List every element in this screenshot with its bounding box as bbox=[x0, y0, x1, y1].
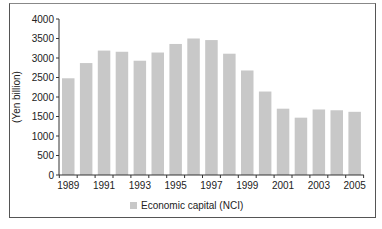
bar-2000 bbox=[259, 92, 272, 175]
bar-1990 bbox=[80, 63, 93, 175]
y-tick-label: 4000 bbox=[32, 14, 55, 25]
bar-1993 bbox=[134, 61, 147, 175]
y-tick-label: 2500 bbox=[32, 72, 55, 83]
x-tick-label: 1995 bbox=[165, 180, 188, 191]
bar-2002 bbox=[295, 118, 308, 175]
y-tick-label: 0 bbox=[48, 170, 54, 181]
x-tick-label: 2001 bbox=[272, 180, 295, 191]
y-tick-label: 2000 bbox=[32, 92, 55, 103]
chart-container: 05001000150020002500300035004000 1989199… bbox=[0, 0, 382, 229]
x-tick-label: 1991 bbox=[93, 180, 116, 191]
bar-1997 bbox=[205, 40, 218, 175]
bar-1998 bbox=[223, 54, 236, 175]
x-tick-label: 1989 bbox=[57, 180, 80, 191]
x-tick-label: 2003 bbox=[308, 180, 331, 191]
bar-2004 bbox=[331, 110, 344, 175]
x-axis: 198919911993199519971999200120032005 bbox=[57, 175, 366, 191]
y-tick-label: 500 bbox=[37, 150, 54, 161]
bar-2001 bbox=[277, 109, 290, 175]
legend-label: Economic capital (NCI) bbox=[141, 200, 243, 211]
bar-2003 bbox=[313, 109, 326, 175]
bar-1996 bbox=[187, 39, 200, 176]
y-axis-label: (Yen billion) bbox=[11, 71, 22, 123]
bars bbox=[62, 39, 361, 176]
x-tick-label: 1997 bbox=[200, 180, 223, 191]
y-tick-label: 3000 bbox=[32, 53, 55, 64]
x-tick-label: 1993 bbox=[129, 180, 152, 191]
bar-1999 bbox=[241, 70, 254, 175]
legend-swatch bbox=[130, 202, 137, 209]
bar-1995 bbox=[169, 44, 182, 175]
bar-1992 bbox=[116, 52, 129, 175]
bar-2005 bbox=[348, 112, 361, 175]
x-tick-label: 2005 bbox=[344, 180, 367, 191]
legend: Economic capital (NCI) bbox=[130, 200, 243, 211]
bar-1989 bbox=[62, 78, 75, 175]
y-tick-label: 3500 bbox=[32, 33, 55, 44]
y-tick-label: 1000 bbox=[32, 131, 55, 142]
bar-1991 bbox=[98, 51, 111, 175]
bar-chart: 05001000150020002500300035004000 1989199… bbox=[0, 0, 382, 229]
x-tick-label: 1999 bbox=[236, 180, 259, 191]
y-tick-label: 1500 bbox=[32, 111, 55, 122]
y-axis: 05001000150020002500300035004000 bbox=[32, 14, 59, 181]
bar-1994 bbox=[152, 53, 165, 175]
